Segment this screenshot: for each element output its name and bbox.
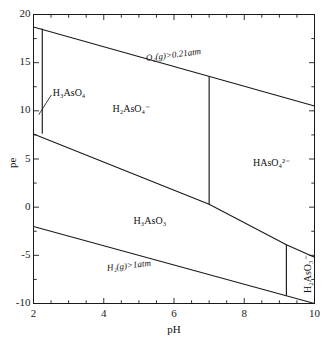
boundary-line-2 — [34, 134, 315, 257]
species-label-H2AsO4: H₂AsO₄⁻ — [113, 104, 151, 114]
species-label-H3AsO3: H₃AsO₃ — [134, 216, 167, 226]
x-tick-label-2: 2 — [19, 308, 49, 319]
x-tick-label-8: 8 — [229, 308, 259, 319]
y-tick-label--10: -10 — [3, 297, 31, 308]
x-tick-label-4: 4 — [89, 308, 119, 319]
x-axis-label: pH — [34, 324, 315, 335]
y-tick-label--5: -5 — [3, 249, 31, 260]
species-label-HAsO42: HAsO₄²⁻ — [253, 158, 290, 168]
pourbaix-diagram: 246810-10-505101520pHpeH₃AsO₄H₂AsO₄⁻HAsO… — [0, 0, 326, 339]
y-tick-label-15: 15 — [3, 56, 31, 67]
figure-root: 246810-10-505101520pHpeH₃AsO₄H₂AsO₄⁻HAsO… — [0, 0, 326, 339]
y-tick-label-0: 0 — [3, 201, 31, 212]
y-axis-label: pe — [7, 158, 18, 168]
x-tick-label-10: 10 — [300, 308, 326, 319]
x-tick-label-6: 6 — [159, 308, 189, 319]
species-label-H2AsO3: H₂AsO₃⁻ — [303, 255, 313, 293]
y-tick-label-20: 20 — [3, 8, 31, 19]
leader-line-h3aso4 — [39, 95, 52, 115]
species-label-H3AsO4: H₃AsO₄ — [53, 88, 86, 98]
y-tick-label-10: 10 — [3, 104, 31, 115]
